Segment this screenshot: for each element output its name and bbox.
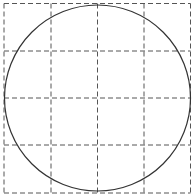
- circle-grid-diagram: [0, 0, 193, 196]
